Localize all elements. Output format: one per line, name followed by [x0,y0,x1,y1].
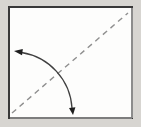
diagram-svg [0,0,141,127]
origami-step-diagram [0,0,141,127]
paper-square [9,7,132,118]
